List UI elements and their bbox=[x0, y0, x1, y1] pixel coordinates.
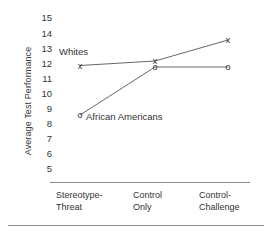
y-tick-label: 14 bbox=[34, 29, 52, 39]
series-annotation-whites: Whites bbox=[59, 47, 88, 57]
y-tick-label: 15 bbox=[34, 13, 52, 23]
y-tick-label: 7 bbox=[34, 134, 52, 144]
y-axis-tick-labels: 15 14 13 12 11 10 9 8 7 6 5 bbox=[34, 0, 52, 237]
y-axis-title: Average Test Performance bbox=[23, 21, 33, 181]
x-category-label-stereotype-threat: Stereotype- Threat bbox=[56, 190, 103, 213]
x-category-label-control-only: Control Only bbox=[133, 190, 162, 213]
bottom-rule bbox=[8, 225, 264, 226]
y-tick-label: 9 bbox=[34, 104, 52, 114]
y-tick-label: 13 bbox=[34, 44, 52, 54]
y-tick-label: 6 bbox=[34, 149, 52, 159]
data-point-marker: o bbox=[77, 111, 82, 120]
y-tick-label: 5 bbox=[34, 164, 52, 174]
data-point-marker: o bbox=[152, 63, 157, 72]
series-annotation-african-americans: African Americans bbox=[86, 112, 163, 122]
chart-figure: Average Test Performance 15 14 13 12 11 … bbox=[0, 0, 272, 237]
y-tick-label: 8 bbox=[34, 119, 52, 129]
y-tick-label: 10 bbox=[34, 89, 52, 99]
data-point-marker: x bbox=[226, 36, 231, 45]
y-tick-label: 11 bbox=[34, 74, 52, 84]
y-tick-label: 12 bbox=[34, 59, 52, 69]
data-point-marker: o bbox=[225, 63, 230, 72]
series-line-african-americans bbox=[80, 67, 228, 115]
data-point-marker: x bbox=[78, 61, 83, 70]
x-category-label-control-challenge: Control- Challenge bbox=[199, 190, 240, 213]
x-axis-rule bbox=[50, 182, 250, 183]
